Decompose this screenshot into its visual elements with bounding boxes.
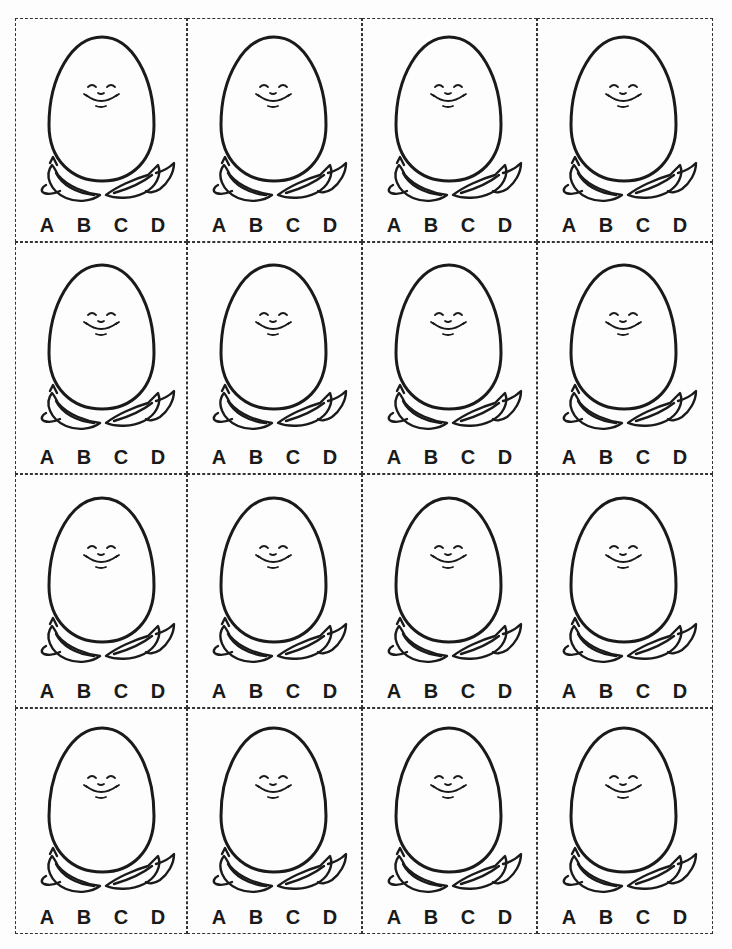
choice-d[interactable]: D bbox=[495, 447, 515, 467]
choice-c[interactable]: C bbox=[283, 447, 303, 467]
answer-choices: A B C D bbox=[16, 211, 186, 235]
choice-c[interactable]: C bbox=[633, 907, 653, 927]
egg-card-r3-c2: A B C D bbox=[187, 474, 362, 708]
choice-b[interactable]: B bbox=[596, 447, 616, 467]
choice-a[interactable]: A bbox=[384, 215, 404, 235]
choice-d[interactable]: D bbox=[670, 447, 690, 467]
choice-c[interactable]: C bbox=[458, 447, 478, 467]
egg-card-r4-c1: A B C D bbox=[15, 708, 187, 934]
egg-icon bbox=[221, 265, 326, 409]
choice-d[interactable]: D bbox=[495, 681, 515, 701]
choice-d[interactable]: D bbox=[670, 681, 690, 701]
choice-a[interactable]: A bbox=[209, 681, 229, 701]
choice-b[interactable]: B bbox=[74, 907, 94, 927]
egg-illustration bbox=[363, 243, 537, 475]
choice-b[interactable]: B bbox=[74, 447, 94, 467]
egg-icon bbox=[571, 37, 676, 181]
egg-icon bbox=[49, 265, 154, 409]
choice-a[interactable]: A bbox=[384, 681, 404, 701]
choice-d[interactable]: D bbox=[320, 215, 340, 235]
choice-b[interactable]: B bbox=[74, 681, 94, 701]
choice-d[interactable]: D bbox=[670, 215, 690, 235]
choice-a[interactable]: A bbox=[37, 447, 57, 467]
choice-b[interactable]: B bbox=[421, 681, 441, 701]
choice-b[interactable]: B bbox=[421, 907, 441, 927]
smiley-face-icon bbox=[256, 313, 291, 335]
smiley-face-icon bbox=[606, 776, 641, 798]
choice-c[interactable]: C bbox=[458, 907, 478, 927]
choice-a[interactable]: A bbox=[37, 681, 57, 701]
smiley-face-icon bbox=[256, 546, 291, 568]
choice-b[interactable]: B bbox=[421, 447, 441, 467]
choice-a[interactable]: A bbox=[384, 447, 404, 467]
choice-d[interactable]: D bbox=[320, 447, 340, 467]
answer-choices: A B C D bbox=[363, 677, 536, 701]
choice-d[interactable]: D bbox=[495, 215, 515, 235]
choice-d[interactable]: D bbox=[320, 907, 340, 927]
choice-c[interactable]: C bbox=[283, 907, 303, 927]
choice-b[interactable]: B bbox=[421, 215, 441, 235]
egg-icon bbox=[49, 728, 154, 872]
choice-b[interactable]: B bbox=[596, 681, 616, 701]
smiley-face-icon bbox=[606, 85, 641, 107]
choice-b[interactable]: B bbox=[246, 907, 266, 927]
choice-b[interactable]: B bbox=[246, 447, 266, 467]
choice-c[interactable]: C bbox=[633, 447, 653, 467]
egg-card-r1-c3: A B C D bbox=[362, 18, 537, 242]
choice-d[interactable]: D bbox=[148, 447, 168, 467]
choice-c[interactable]: C bbox=[111, 681, 131, 701]
answer-choices: A B C D bbox=[363, 211, 536, 235]
egg-card-r4-c3: A B C D bbox=[362, 708, 537, 934]
choice-c[interactable]: C bbox=[458, 215, 478, 235]
choice-a[interactable]: A bbox=[209, 215, 229, 235]
choice-a[interactable]: A bbox=[209, 447, 229, 467]
answer-choices: A B C D bbox=[188, 443, 361, 467]
egg-illustration bbox=[16, 243, 190, 475]
choice-c[interactable]: C bbox=[111, 447, 131, 467]
choice-d[interactable]: D bbox=[148, 215, 168, 235]
choice-a[interactable]: A bbox=[559, 907, 579, 927]
choice-c[interactable]: C bbox=[111, 215, 131, 235]
smiley-face-icon bbox=[256, 776, 291, 798]
choice-b[interactable]: B bbox=[246, 215, 266, 235]
choice-c[interactable]: C bbox=[633, 681, 653, 701]
choice-d[interactable]: D bbox=[320, 681, 340, 701]
egg-icon bbox=[49, 498, 154, 642]
egg-card-r2-c2: A B C D bbox=[187, 242, 362, 474]
choice-b[interactable]: B bbox=[596, 907, 616, 927]
choice-a[interactable]: A bbox=[37, 215, 57, 235]
choice-a[interactable]: A bbox=[559, 215, 579, 235]
egg-icon bbox=[221, 498, 326, 642]
choice-d[interactable]: D bbox=[495, 907, 515, 927]
smiley-face-icon bbox=[84, 776, 119, 798]
choice-d[interactable]: D bbox=[670, 907, 690, 927]
choice-c[interactable]: C bbox=[633, 215, 653, 235]
answer-choices: A B C D bbox=[16, 677, 186, 701]
answer-choices: A B C D bbox=[538, 903, 712, 927]
choice-a[interactable]: A bbox=[559, 447, 579, 467]
choice-c[interactable]: C bbox=[283, 681, 303, 701]
egg-icon bbox=[221, 37, 326, 181]
egg-card-r2-c1: A B C D bbox=[15, 242, 187, 474]
egg-illustration bbox=[363, 476, 537, 708]
choice-a[interactable]: A bbox=[37, 907, 57, 927]
egg-card-r3-c4: A B C D bbox=[537, 474, 713, 708]
egg-card-r4-c2: A B C D bbox=[187, 708, 362, 934]
choice-c[interactable]: C bbox=[283, 215, 303, 235]
choice-b[interactable]: B bbox=[596, 215, 616, 235]
egg-card-r3-c3: A B C D bbox=[362, 474, 537, 708]
choice-a[interactable]: A bbox=[209, 907, 229, 927]
choice-c[interactable]: C bbox=[111, 907, 131, 927]
egg-icon bbox=[396, 265, 501, 409]
choice-c[interactable]: C bbox=[458, 681, 478, 701]
smiley-face-icon bbox=[84, 313, 119, 335]
egg-icon bbox=[49, 37, 154, 181]
egg-icon bbox=[396, 728, 501, 872]
choice-d[interactable]: D bbox=[148, 681, 168, 701]
choice-b[interactable]: B bbox=[74, 215, 94, 235]
choice-d[interactable]: D bbox=[148, 907, 168, 927]
choice-a[interactable]: A bbox=[384, 907, 404, 927]
choice-a[interactable]: A bbox=[559, 681, 579, 701]
choice-b[interactable]: B bbox=[246, 681, 266, 701]
egg-icon bbox=[571, 265, 676, 409]
